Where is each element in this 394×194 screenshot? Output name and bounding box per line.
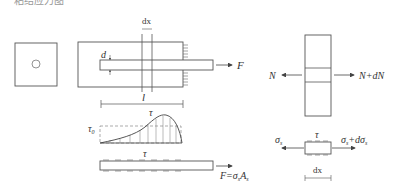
caption-partial: 粘结应力图 (14, 0, 64, 6)
sigma-right-label: σs+dσs (341, 134, 368, 146)
l-label: l (142, 91, 145, 103)
bar-free-body: τ F=σsAs (100, 148, 249, 182)
pullout-specimen: d dx F (78, 16, 244, 92)
bond-stress-diagram: 粘结应力图 d dx F l (0, 0, 394, 194)
bar-element-N: N N+dN (268, 35, 385, 116)
tau-label: τ (149, 107, 153, 118)
sigma-left-label: σs (275, 134, 283, 146)
tau-elem-label: τ (315, 129, 319, 140)
dx-bottom-label: dx (313, 165, 323, 175)
differential-element: τ σs σs+dσs dx (275, 129, 368, 181)
N-right-label: N+dN (358, 70, 385, 81)
tau-bar-label: τ (143, 148, 147, 159)
tau0-label: τ0 (88, 123, 95, 135)
dx-top-label: dx (142, 16, 152, 26)
F-label: F (236, 59, 244, 71)
bond-stress-distribution: τ τ0 (88, 107, 182, 143)
F-equation: F=σsAs (219, 170, 249, 182)
length-dimension: l (101, 91, 183, 108)
N-left-label: N (268, 70, 277, 81)
d-label: d (101, 49, 107, 60)
cross-section (15, 43, 57, 86)
